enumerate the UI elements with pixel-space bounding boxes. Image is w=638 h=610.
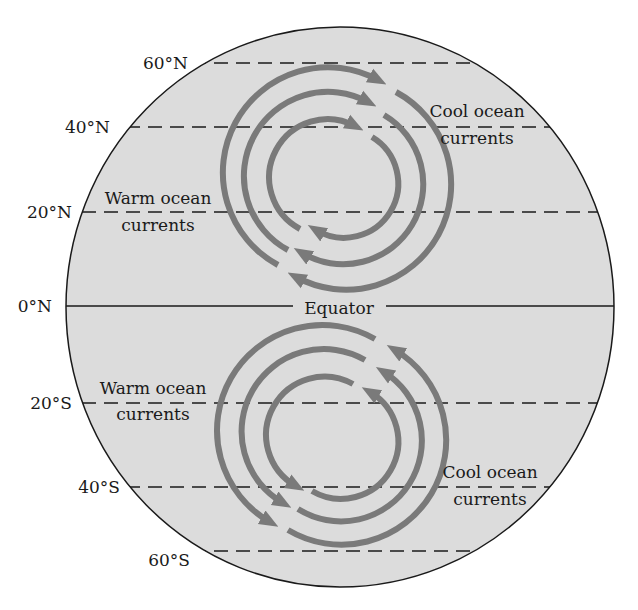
equator-label: Equator bbox=[304, 298, 374, 318]
north-warm-label-line1: Warm ocean bbox=[105, 188, 212, 208]
ocean-gyre-diagram: 60°N 40°N 20°N 0°N 20°S 40°S 60°S Equato… bbox=[0, 0, 638, 610]
latitude-label-20s: 20°S bbox=[30, 393, 72, 413]
south-warm-label-line2: currents bbox=[116, 404, 189, 424]
latitude-label-0n: 0°N bbox=[18, 296, 52, 316]
latitude-label-40s: 40°S bbox=[78, 477, 120, 497]
latitude-label-60n: 60°N bbox=[143, 53, 188, 73]
latitude-label-40n: 40°N bbox=[65, 117, 110, 137]
latitude-label-60s: 60°S bbox=[148, 550, 190, 570]
north-cool-label-line2: currents bbox=[440, 128, 513, 148]
north-warm-label-line2: currents bbox=[121, 215, 194, 235]
south-warm-label-line1: Warm ocean bbox=[100, 378, 207, 398]
latitude-label-20n: 20°N bbox=[27, 202, 72, 222]
south-cool-label-line1: Cool ocean bbox=[442, 462, 537, 482]
south-cool-label-line2: currents bbox=[453, 489, 526, 509]
north-cool-label-line1: Cool ocean bbox=[429, 101, 524, 121]
